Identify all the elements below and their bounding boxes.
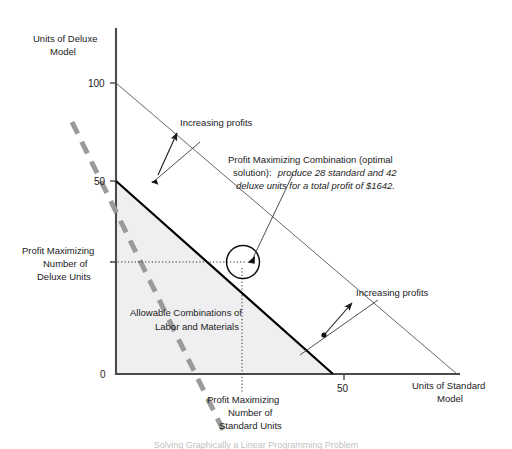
- y-axis-title-line2: Model: [50, 46, 76, 57]
- deluxe-units-guideline-label-line2: Number of: [43, 258, 88, 269]
- y-tick-label-50: 50: [94, 176, 106, 187]
- deluxe-units-guideline-label-line1: Profit Maximizing: [22, 245, 94, 256]
- x-axis-title-line1: Units of Standard: [412, 380, 485, 391]
- standard-units-guideline-label-line2: Number of: [228, 407, 273, 418]
- y-axis-title-line1: Units of Deluxe: [33, 33, 97, 44]
- deluxe-units-guideline-label-line3: Deluxe Units: [37, 271, 91, 282]
- x-axis-title-line2: Model: [437, 393, 463, 404]
- linear-programming-graph: Units of Deluxe Model 100 50 0 50 Units …: [0, 0, 512, 449]
- increasing-profits-lower-dot: [321, 332, 326, 337]
- feasible-region-label-line1: Allowable Combinations of: [130, 307, 242, 318]
- feasible-region-label-line2: Labor and Materials: [155, 321, 239, 332]
- increasing-profits-lower-base-line: [300, 300, 378, 355]
- optimal-callout-line2-italic: produce 28 standard and 42: [277, 167, 398, 178]
- increasing-profits-upper-base-line: [152, 142, 200, 183]
- y-tick-label-100: 100: [88, 78, 105, 89]
- standard-units-guideline-label-line3: Standard Units: [219, 420, 282, 431]
- optimal-callout-line2: solution): produce 28 standard and 42: [233, 167, 397, 178]
- increasing-profits-upper-label: Increasing profits: [180, 117, 253, 128]
- increasing-profits-upper-arrow: [158, 133, 177, 175]
- optimal-callout-arrowhead: [248, 256, 256, 264]
- optimal-callout-line3: deluxe units for a total profit of $1642…: [236, 180, 395, 191]
- x-tick-label-50: 50: [337, 383, 349, 394]
- y-tick-label-0: 0: [100, 369, 106, 380]
- figure-caption: Solving Graphically a Linear Programming…: [0, 440, 512, 449]
- figure-canvas: Units of Deluxe Model 100 50 0 50 Units …: [0, 0, 512, 449]
- optimal-callout-line2-plain: solution):: [233, 167, 272, 178]
- optimal-callout-line1: Profit Maximizing Combination (optimal: [228, 154, 393, 165]
- increasing-profits-lower-arrow: [324, 303, 352, 335]
- increasing-profits-lower-label: Increasing profits: [356, 287, 429, 298]
- standard-units-guideline-label-line1: Profit Maximizing: [207, 394, 279, 405]
